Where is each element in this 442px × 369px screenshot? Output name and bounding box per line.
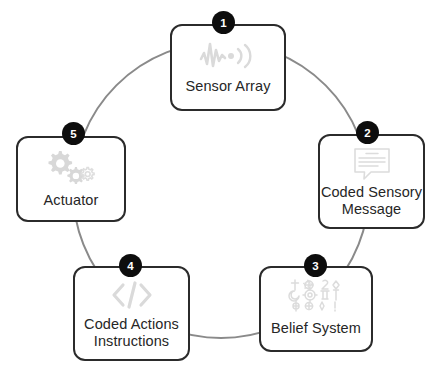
node-label-line-1: Coded Sensory: [320, 184, 423, 201]
node-label-line-2: Instructions: [75, 333, 188, 350]
node-badge-2: 2: [356, 121, 379, 144]
node-label-line-2: Message: [320, 201, 423, 218]
node-label-sensor-array: Sensor Array: [172, 78, 284, 95]
gears-icon: [18, 148, 124, 184]
node-badge-5: 5: [62, 122, 85, 145]
node-badge-4: 4: [119, 254, 142, 277]
node-label-coded-actions-instructions: Coded Actions Instructions: [75, 316, 188, 350]
node-label-belief-system: Belief System: [261, 320, 371, 337]
node-label-actuator: Actuator: [18, 192, 124, 209]
node-sensor-array[interactable]: Sensor Array: [170, 24, 286, 111]
node-coded-actions-instructions[interactable]: Coded Actions Instructions: [73, 266, 190, 361]
religious-symbols-grid-icon: [261, 278, 371, 312]
speech-bubble-text-icon: [320, 146, 423, 182]
node-badge-1: 1: [212, 11, 235, 34]
signal-waveform-icon: [172, 38, 284, 72]
node-coded-sensory-message[interactable]: Coded Sensory Message: [318, 134, 425, 229]
node-belief-system[interactable]: Belief System: [259, 266, 373, 352]
node-actuator[interactable]: Actuator: [16, 136, 126, 222]
node-label-coded-sensory-message: Coded Sensory Message: [320, 184, 423, 218]
cycle-diagram: Sensor Array 1 Coded Sensory Message 2: [0, 0, 442, 369]
code-brackets-icon: [75, 278, 188, 312]
node-label-line-1: Coded Actions: [75, 316, 188, 333]
node-badge-3: 3: [304, 254, 327, 277]
